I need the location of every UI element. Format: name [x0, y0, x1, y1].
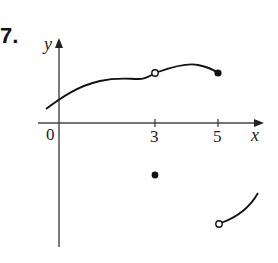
open-circle-at-5: [216, 221, 222, 227]
filled-dot-at-5: [214, 69, 221, 76]
problem-number: 7.: [0, 23, 18, 48]
isolated-point-at-3: [152, 172, 159, 179]
y-axis-label: y: [42, 34, 52, 54]
x-axis: [38, 119, 264, 127]
origin-label: 0: [46, 125, 55, 144]
y-axis: [55, 38, 63, 247]
function-graph: 7. y x 0 3 5: [0, 0, 278, 263]
left-curve: [46, 73, 155, 109]
tick-label-3: 3: [150, 127, 159, 146]
y-axis-arrow-icon: [55, 38, 63, 48]
right-curve: [221, 193, 258, 223]
middle-curve: [158, 64, 218, 73]
tick-label-5: 5: [213, 127, 222, 146]
x-axis-label: x: [250, 125, 259, 145]
open-circle-at-3: [152, 70, 158, 76]
